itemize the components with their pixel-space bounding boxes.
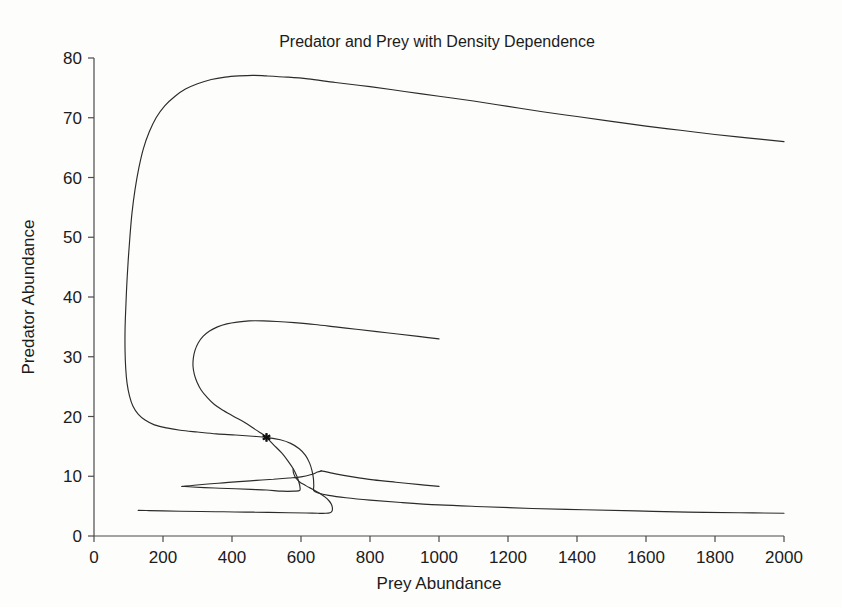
x-tick-label: 2000 [765,548,803,567]
y-tick-label: 0 [73,527,82,546]
y-tick-label: 70 [63,109,82,128]
chart-figure: Predator and Prey with Density Dependenc… [0,0,842,607]
x-tick-label: 1400 [558,548,596,567]
x-tick-label: 1800 [696,548,734,567]
x-tick-label: 1000 [420,548,458,567]
x-tick-label: 200 [149,548,177,567]
y-tick-label: 40 [63,288,82,307]
y-tick-label: 30 [63,348,82,367]
x-tick-label: 400 [218,548,246,567]
y-tick-label: 60 [63,169,82,188]
y-axis-title: Predator Abundance [19,219,38,374]
x-tick-label: 800 [356,548,384,567]
x-tick-label: 1200 [489,548,527,567]
x-axis-title: Prey Abundance [377,574,502,593]
x-tick-label: 0 [89,548,98,567]
phase-plane-plot: Predator and Prey with Density Dependenc… [0,0,842,607]
y-tick-label: 20 [63,408,82,427]
x-tick-label: 600 [287,548,315,567]
y-tick-label: 50 [63,228,82,247]
page-title: Predator and Prey with Density Dependenc… [279,33,595,50]
x-tick-label: 1600 [627,548,665,567]
y-tick-label: 10 [63,467,82,486]
y-tick-label: 80 [63,49,82,68]
